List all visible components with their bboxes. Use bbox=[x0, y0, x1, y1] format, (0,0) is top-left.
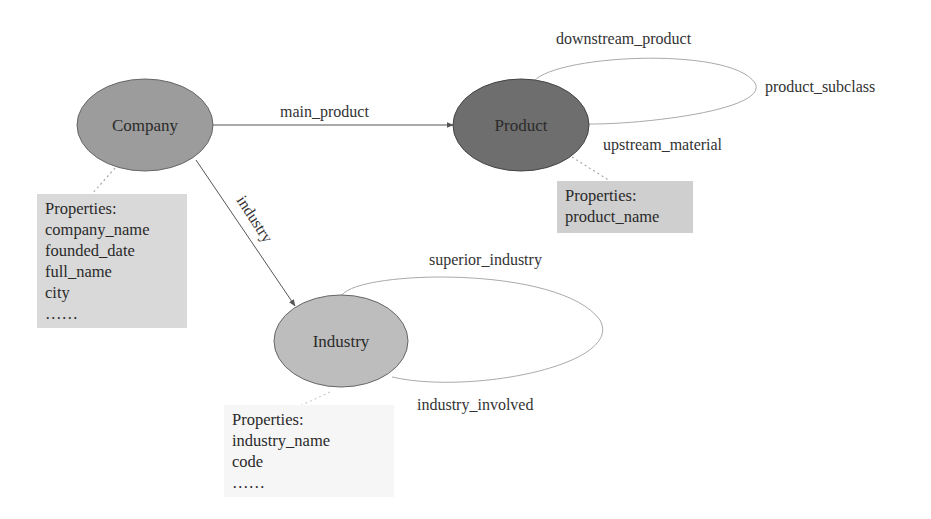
property-item-ellipsis: …… bbox=[232, 472, 386, 493]
property-item: founded_date bbox=[45, 240, 179, 261]
product-properties-connector bbox=[572, 157, 610, 181]
properties-title: Properties: bbox=[565, 185, 685, 206]
edge-label-upstream-material: upstream_material bbox=[603, 136, 723, 154]
edge-label-product-subclass: product_subclass bbox=[765, 78, 875, 96]
property-item: company_name bbox=[45, 219, 179, 240]
edge-label-superior-industry: superior_industry bbox=[429, 251, 542, 269]
properties-title: Properties: bbox=[45, 198, 179, 219]
edge-label-industry: industry bbox=[233, 192, 277, 246]
node-industry[interactable]: Industry bbox=[274, 295, 408, 387]
property-item: code bbox=[232, 451, 386, 472]
edge-label-industry-involved: industry_involved bbox=[417, 396, 533, 414]
property-item: industry_name bbox=[232, 430, 386, 451]
node-label-industry: Industry bbox=[313, 332, 370, 351]
node-product[interactable]: Product bbox=[453, 79, 589, 171]
property-item-ellipsis: …… bbox=[45, 303, 179, 324]
company-properties-connector bbox=[92, 168, 115, 194]
industry-properties-box: Properties: industry_name code …… bbox=[224, 405, 394, 497]
company-properties-box: Properties: company_name founded_date fu… bbox=[37, 194, 187, 328]
node-label-company: Company bbox=[112, 116, 179, 135]
industry-properties-connector bbox=[300, 392, 330, 406]
node-label-product: Product bbox=[495, 116, 548, 135]
property-item: product_name bbox=[565, 206, 685, 227]
property-item: city bbox=[45, 282, 179, 303]
edge-label-main-product: main_product bbox=[280, 103, 369, 121]
product-properties-box: Properties: product_name bbox=[557, 181, 693, 233]
properties-title: Properties: bbox=[232, 409, 386, 430]
node-company[interactable]: Company bbox=[77, 79, 213, 171]
property-item: full_name bbox=[45, 261, 179, 282]
edge-label-downstream-product: downstream_product bbox=[556, 30, 692, 48]
edge-industry bbox=[196, 160, 295, 306]
